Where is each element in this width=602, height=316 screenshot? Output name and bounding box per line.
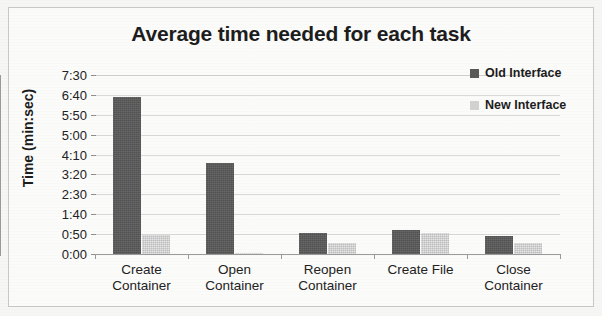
gridline <box>95 155 560 156</box>
x-tick-label: CreateContainer <box>95 262 188 294</box>
y-tick-mark <box>91 135 96 136</box>
bar-new-interface <box>142 235 170 254</box>
bar-new-interface <box>421 233 449 254</box>
x-tick-mark <box>560 254 561 259</box>
legend-swatch-icon-old <box>470 69 479 78</box>
x-tick-label-line: Close <box>467 262 560 278</box>
gridline <box>95 174 560 175</box>
bar-new-interface <box>328 243 356 254</box>
x-tick-label-line: Open <box>188 262 281 278</box>
y-tick-label: 2:30 <box>39 187 87 202</box>
y-tick-label: 6:40 <box>39 88 87 103</box>
bar-old-interface <box>485 236 513 254</box>
x-tick-mark <box>374 254 375 259</box>
x-tick-label: OpenContainer <box>188 262 281 294</box>
y-tick-mark <box>91 95 96 96</box>
bar-new-interface <box>235 253 263 254</box>
y-axis-line <box>0 75 1 256</box>
legend: Old Interface New Interface <box>470 66 595 130</box>
legend-swatch-icon-new <box>470 101 479 110</box>
y-tick-label: 1:40 <box>39 207 87 222</box>
legend-item-old-interface: Old Interface <box>470 66 595 80</box>
y-tick-label: 0:00 <box>39 247 87 262</box>
gridline <box>95 214 560 215</box>
bar-old-interface <box>392 230 420 254</box>
y-tick-mark <box>91 214 96 215</box>
x-tick-label: ReopenContainer <box>281 262 374 294</box>
legend-label-new: New Interface <box>485 98 566 112</box>
x-tick-mark <box>95 254 96 259</box>
x-tick-label: Create File <box>374 262 467 278</box>
y-tick-label: 5:50 <box>39 108 87 123</box>
x-tick-mark <box>467 254 468 259</box>
y-tick-label: 5:00 <box>39 128 87 143</box>
bar-old-interface <box>299 233 327 254</box>
chart-image: Average time needed for each task Time (… <box>0 0 602 316</box>
x-axis-line <box>95 254 561 255</box>
x-tick-label-line: Create <box>95 262 188 278</box>
y-tick-label: 3:20 <box>39 167 87 182</box>
bar-old-interface <box>113 97 141 254</box>
y-tick-mark <box>91 194 96 195</box>
bar-old-interface <box>206 163 234 254</box>
y-tick-mark <box>91 174 96 175</box>
y-tick-label: 4:10 <box>39 148 87 163</box>
legend-label-old: Old Interface <box>485 66 561 80</box>
y-tick-label: 7:30 <box>39 68 87 83</box>
y-tick-label: 0:50 <box>39 227 87 242</box>
x-tick-label-line: Container <box>188 278 281 294</box>
legend-item-new-interface: New Interface <box>470 98 595 112</box>
x-tick-label-line: Reopen <box>281 262 374 278</box>
x-tick-label-line: Container <box>95 278 188 294</box>
y-tick-mark <box>91 155 96 156</box>
x-tick-mark <box>188 254 189 259</box>
x-tick-mark <box>281 254 282 259</box>
gridline <box>95 194 560 195</box>
y-tick-mark <box>91 75 96 76</box>
y-tick-mark <box>91 115 96 116</box>
x-tick-label: CloseContainer <box>467 262 560 294</box>
x-tick-label-line: Container <box>281 278 374 294</box>
gridline <box>95 135 560 136</box>
bar-new-interface <box>514 243 542 254</box>
x-tick-label-line: Create File <box>374 262 467 278</box>
y-tick-mark <box>91 234 96 235</box>
x-tick-label-line: Container <box>467 278 560 294</box>
